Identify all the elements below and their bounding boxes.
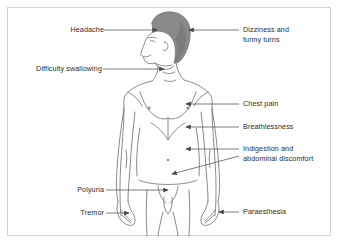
abdomen-flank-right [196, 128, 199, 176]
hip-line [139, 180, 197, 185]
forearm-crease-right [209, 150, 210, 168]
mouth-line [144, 55, 151, 57]
navel [167, 159, 170, 162]
label-headache: Headache [40, 25, 104, 35]
abdomen-flank-left [137, 128, 140, 176]
label-paraesthesia: Paraesthesia [243, 207, 327, 217]
groin-right [170, 186, 178, 203]
human-figure [116, 12, 219, 236]
torso-outline [120, 80, 216, 216]
chest-right [168, 92, 196, 119]
forearm-crease-left [126, 150, 127, 168]
clavicle-notch [164, 80, 176, 82]
shoulder-left [128, 92, 142, 106]
nipple-left [147, 106, 150, 109]
groin-left [158, 186, 166, 203]
chest-left [140, 92, 168, 119]
arm-right-inner [201, 112, 208, 201]
hand-right [201, 201, 219, 225]
label-polyuria: Polyuria [50, 185, 104, 195]
ear [163, 42, 168, 51]
diagram-canvas: Headache Difficulty swallowing Polyuria … [0, 0, 339, 244]
nipple-right [186, 106, 189, 109]
crotch-inner-right [173, 212, 178, 236]
fingers-left [121, 210, 131, 223]
neck-throat [163, 72, 175, 74]
brow-line [148, 37, 156, 38]
label-difficulty-swallowing: Difficulty swallowing [14, 64, 102, 74]
label-chest-pain: Chest pain [243, 99, 327, 109]
label-tremor: Tremor [50, 208, 104, 218]
crotch-inner-left [158, 212, 163, 236]
face-profile [141, 31, 174, 69]
thigh-right [189, 190, 190, 236]
label-breathlessness: Breathlessness [243, 122, 327, 132]
genital-outline [164, 197, 173, 214]
fingers-right [205, 210, 215, 223]
arm-left-inner [128, 112, 135, 201]
thigh-left [146, 190, 147, 236]
label-dizziness-and-funny-turns: Dizziness and funny turns [243, 25, 327, 44]
eye [150, 41, 155, 42]
label-indigestion-and-abdominal-discomfort: Indigestion and abdominal discomfort [243, 144, 333, 163]
